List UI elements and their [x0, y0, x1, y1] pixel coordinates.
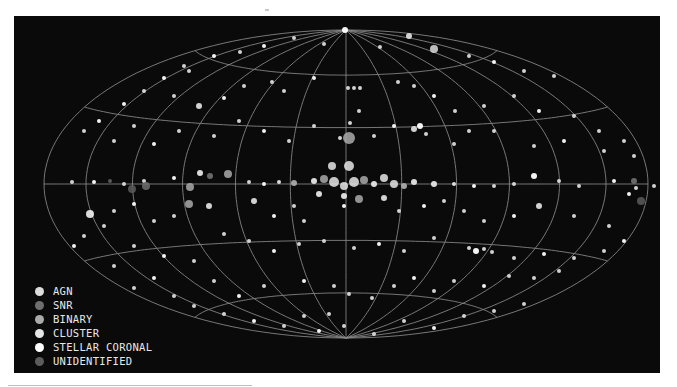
source-point-stellar-coronal [482, 284, 486, 288]
source-point-agn [467, 129, 471, 133]
source-point-stellar-coronal [473, 248, 479, 254]
source-point-stellar-coronal [342, 204, 346, 208]
legend-label: CLUSTER [53, 327, 99, 339]
source-point-agn [492, 309, 496, 313]
source-point-agn [332, 284, 336, 288]
source-point-stellar-coronal [562, 139, 566, 143]
source-point-agn [152, 219, 156, 223]
source-point-agn [507, 274, 511, 278]
source-point-agn [402, 249, 406, 253]
source-point-agn [607, 224, 611, 228]
source-point-stellar-coronal [272, 249, 276, 253]
source-point-agn [402, 319, 406, 323]
source-point-agn [142, 89, 146, 93]
source-point-snr [207, 173, 213, 179]
source-point-agn [70, 180, 74, 184]
source-point-stellar-coronal [172, 176, 176, 180]
source-point-agn [392, 284, 396, 288]
source-point-agn [347, 292, 351, 296]
source-point-stellar-coronal [612, 179, 616, 183]
source-point-agn [406, 33, 412, 39]
source-point-agn [346, 86, 350, 90]
source-point-agn [282, 89, 286, 93]
source-point-binary [224, 170, 232, 178]
source-point-snr [142, 182, 150, 190]
source-point-binary [355, 195, 363, 203]
source-point-stellar-coronal [86, 210, 94, 218]
source-point-agn [432, 236, 436, 240]
source-point-agn [632, 154, 636, 158]
source-point-snr [631, 178, 637, 184]
source-point-binary [291, 180, 297, 186]
source-point-cluster [340, 182, 348, 190]
source-point-agn [212, 279, 216, 283]
source-point-agn [453, 109, 457, 113]
source-point-agn [292, 204, 296, 208]
source-point-binary [343, 132, 355, 144]
source-point-agn [196, 103, 202, 109]
legend-label: STELLAR CORONAL [53, 341, 152, 353]
source-point-stellar-coronal [302, 279, 306, 283]
source-point-agn [206, 203, 212, 209]
source-point-agn [462, 314, 466, 318]
legend-item-cluster: CLUSTER [34, 326, 152, 340]
source-point-agn [358, 86, 362, 90]
source-point-agn [270, 80, 274, 84]
source-point-agn [396, 80, 400, 84]
source-point-agn [338, 136, 342, 140]
source-point-stellar-coronal [162, 76, 166, 80]
source-point-agn [82, 129, 86, 133]
sky-map-panel: AGN SNR BINARY CLUSTER STELLAR CORONAL U… [14, 16, 660, 373]
divider-line [8, 385, 252, 386]
source-point-agn [482, 219, 486, 223]
source-point-agn [432, 289, 436, 293]
source-point-stellar-coronal [212, 54, 216, 58]
source-point-binary [360, 176, 368, 184]
source-point-agn [557, 269, 561, 273]
source-point-agn [411, 126, 417, 132]
legend-item-unidentified: UNIDENTIFIED [34, 354, 152, 368]
source-point-stellar-coronal [377, 242, 381, 246]
source-point-stellar-coronal [432, 94, 436, 98]
source-point-agn [602, 149, 606, 153]
source-point-agn [482, 247, 486, 251]
legend-item-binary: BINARY [34, 312, 152, 326]
source-point-cluster [316, 191, 322, 197]
source-point-agn [322, 239, 326, 243]
source-point-stellar-coronal [492, 60, 496, 64]
source-point-agn [492, 129, 496, 133]
source-point-cluster [329, 177, 339, 187]
source-point-agn [572, 114, 576, 118]
source-point-agn [462, 209, 466, 213]
legend-item-stellar-coronal: STELLAR CORONAL [34, 340, 152, 354]
source-point-agn [512, 94, 516, 98]
source-point-agn [452, 142, 456, 146]
source-point-stellar-coronal [72, 244, 76, 248]
source-point-binary [401, 183, 407, 189]
source-point-agn [522, 302, 526, 306]
source-point-agn [262, 284, 266, 288]
source-point-cluster [390, 180, 398, 188]
source-point-stellar-coronal [97, 119, 101, 123]
scan-artifact [265, 9, 269, 11]
source-point-agn [287, 139, 291, 143]
source-point-agn [112, 209, 116, 213]
source-point-stellar-coronal [542, 252, 546, 256]
source-point-agn [132, 124, 136, 128]
source-point-agn [490, 250, 494, 254]
source-point-stellar-coronal [262, 44, 266, 48]
source-point-agn [312, 124, 316, 128]
source-point-stellar-coronal [152, 276, 156, 280]
source-point-unidentified [128, 185, 136, 193]
source-point-agn [492, 184, 496, 188]
source-point-agn [522, 69, 526, 73]
source-point-agn [112, 139, 116, 143]
source-point-cluster [349, 177, 359, 187]
source-point-cluster [452, 182, 456, 186]
source-point-cluster [311, 178, 317, 184]
snr-marker-icon [35, 301, 44, 310]
legend-label: AGN [53, 285, 73, 297]
source-point-cluster [380, 174, 388, 182]
source-point-agn [634, 186, 638, 190]
source-point-binary [186, 183, 194, 191]
